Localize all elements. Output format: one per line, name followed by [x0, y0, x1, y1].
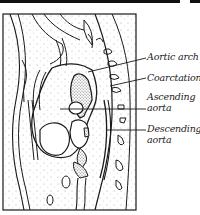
label-ascending-line1: Ascending: [147, 91, 195, 102]
label-descending-aorta: Descending aorta: [147, 123, 200, 145]
label-descending-line1: Descending: [147, 123, 200, 134]
label-ascending-aorta: Ascending aorta: [147, 91, 195, 113]
label-descending-line2: aorta: [147, 134, 200, 145]
label-coarctation: Coarctation: [147, 72, 200, 83]
drawing-frame: [3, 14, 136, 210]
label-ascending-line2: aorta: [147, 102, 195, 113]
label-aortic-arch: Aortic arch: [147, 51, 199, 62]
